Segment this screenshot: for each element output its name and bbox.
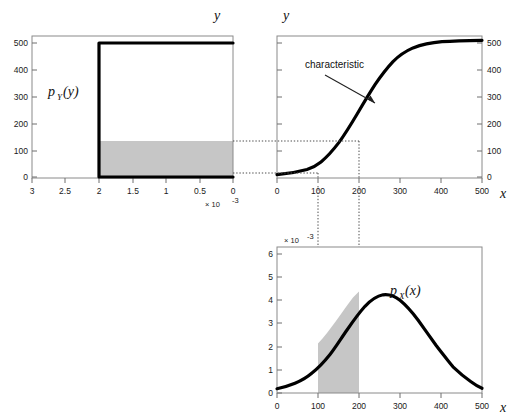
xtick-100: 100 [311,186,325,196]
input-density-label: p X (x) [389,283,421,301]
characteristic-x-ticks [277,178,482,183]
ytick-200: 200 [14,119,28,129]
characteristic-x-axis-label: x [499,186,507,201]
xtick-0: 0 [231,186,236,196]
ytick-500: 500 [14,38,28,48]
ytick-0: 0 [268,388,273,398]
output-density-y-ticklabels: 500 400 300 200 100 0 [14,38,28,182]
characteristic-y-axis-label: y [281,8,290,23]
xtick-500: 500 [475,186,489,196]
xtick-400: 400 [434,401,448,411]
xtick-200: 200 [352,401,366,411]
ytick-3: 3 [268,318,273,328]
input-density-y-ticklabels: 6 5 4 3 2 1 0 [268,249,273,398]
xtick-400: 400 [434,186,448,196]
xtick-500: 500 [475,401,489,411]
ytick-0: 0 [487,172,492,182]
ytick-2: 2 [268,342,273,352]
xtick-0: 0 [275,186,280,196]
output-density-x-ticks [32,178,233,183]
input-density-x-ticklabels: 0 100 200 300 400 500 [275,401,490,411]
xtick-2: 2 [97,186,102,196]
output-density-y-ticks [32,43,37,177]
ytick-300: 300 [14,92,28,102]
ytick-5: 5 [268,272,273,282]
xtick-0: 0 [275,401,280,411]
ytick-400: 400 [487,65,501,75]
px-argument: (x) [405,283,421,299]
characteristic-y-ticklabels: 500 400 300 200 100 0 [487,38,501,182]
plot-output-density: 500 400 300 200 100 0 3 2.5 2 1.5 1 0.5 … [14,8,239,209]
ytick-100: 100 [14,146,28,156]
xtick-1p5: 1.5 [127,186,139,196]
output-density-shaded-region [99,141,233,177]
input-density-curve [277,295,482,389]
xtick-2p5: 2.5 [59,186,71,196]
characteristic-annotation-arrow [325,75,375,103]
output-density-x-multiplier: × 10 -3 [205,196,239,209]
multiplier-exponent: -3 [232,196,239,205]
input-density-x-ticks [277,393,482,398]
plot-characteristic: 500 400 300 200 100 0 0 100 200 300 400 … [233,8,507,247]
xtick-3: 3 [30,186,35,196]
plot-input-density: 6 5 4 3 2 1 0 × 10 -3 0 100 200 300 40 [268,232,507,415]
px-subscript: X [398,291,405,301]
input-density-y-ticks [277,254,282,393]
input-density-y-multiplier: × 10 -3 [284,232,314,245]
characteristic-frame [277,36,482,178]
ytick-500: 500 [487,38,501,48]
characteristic-guides [233,141,359,247]
output-density-x-ticklabels: 3 2.5 2 1.5 1 0.5 0 [30,186,236,196]
xtick-200: 200 [352,186,366,196]
px-symbol: p [389,283,397,298]
py-symbol: p [47,84,55,99]
multiplier-exponent: -3 [307,232,314,241]
ytick-1: 1 [268,365,273,375]
xtick-300: 300 [393,401,407,411]
ytick-300: 300 [487,92,501,102]
ytick-100: 100 [487,146,501,156]
output-density-label: p Y (y) [47,84,79,102]
py-argument: (y) [63,84,79,100]
ytick-400: 400 [14,65,28,75]
characteristic-annotation-label: characteristic [305,59,364,70]
figure-container: 500 400 300 200 100 0 3 2.5 2 1.5 1 0.5 … [0,0,526,420]
multiplier-text: × 10 [284,236,299,245]
xtick-100: 100 [311,401,325,411]
output-density-y-axis-label: y [212,8,221,23]
input-density-x-axis-label: x [499,400,507,415]
ytick-4: 4 [268,295,273,305]
xtick-300: 300 [393,186,407,196]
xtick-1: 1 [164,186,169,196]
characteristic-x-ticklabels: 0 100 200 300 400 500 [275,186,490,196]
multiplier-text: × 10 [205,200,220,209]
ytick-6: 6 [268,249,273,259]
xtick-0p5: 0.5 [194,186,206,196]
input-density-frame [277,247,482,393]
ytick-0: 0 [23,172,28,182]
ytick-200: 200 [487,119,501,129]
figure-svg: 500 400 300 200 100 0 3 2.5 2 1.5 1 0.5 … [0,0,526,420]
